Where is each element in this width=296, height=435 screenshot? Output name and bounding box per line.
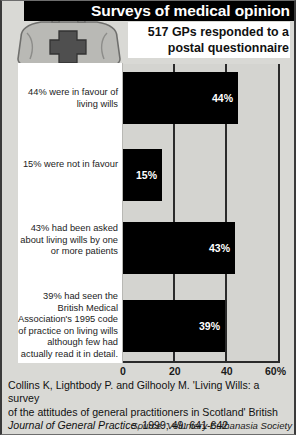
poster-container: Surveys of medical opinion 517 GPs respo… — [0, 0, 296, 435]
title-bar: Surveys of medical opinion — [24, 1, 296, 21]
source-note: Source: Voluntary Euthanasia Society — [8, 420, 292, 432]
bar-0: 44% — [123, 72, 238, 124]
bar-label-1: 15% were not in favour — [18, 159, 122, 171]
labels-panel: 44% were in favour of living wills 15% w… — [18, 63, 123, 363]
chart-plot-area: 44% 15% 43% 39% — [123, 64, 280, 363]
bar-2: 43% — [123, 222, 235, 274]
citation-line-1: Collins K, Lightbody P. and Gilhooly M. … — [8, 379, 292, 406]
bar-1: 15% — [123, 149, 162, 201]
bar-value-1: 15% — [136, 170, 157, 181]
bar-value-3: 39% — [199, 321, 220, 332]
bar-label-2: 43% had been asked about living wills by… — [18, 223, 122, 258]
subtitle: 517 GPs responded to a postal questionna… — [128, 22, 290, 58]
x-tick-0: 0 — [120, 365, 126, 377]
bar-label-0: 44% were in favour of living wills — [18, 87, 122, 110]
x-tick-60: 60% — [265, 365, 286, 377]
bar-value-2: 43% — [209, 243, 230, 254]
bar-value-0: 44% — [212, 93, 233, 104]
x-tick-40: 40 — [221, 365, 233, 377]
x-axis-labels: 0 20 40 60% — [107, 365, 296, 379]
page-title: Surveys of medical opinion — [91, 2, 290, 20]
bar-3: 39% — [123, 300, 225, 352]
x-tick-20: 20 — [169, 365, 181, 377]
bar-label-3: 39% had seen the British Medical Associa… — [18, 291, 122, 361]
citation-line-2: of the attitudes of general practitioner… — [8, 406, 292, 419]
